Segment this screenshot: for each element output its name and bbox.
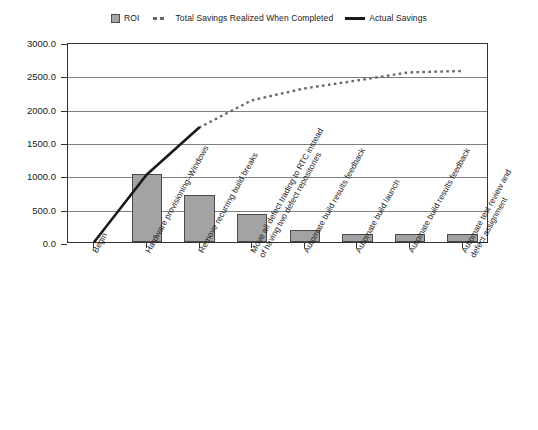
x-axis: BeginHardware provisioning–WindowsRemove… xyxy=(67,243,488,423)
y-tick-label: 1000.0 xyxy=(27,173,56,183)
total-savings-dotted-line xyxy=(199,71,461,128)
y-tick-label: 3000.0 xyxy=(27,39,56,49)
y-tick-label: 0.0 xyxy=(43,239,56,249)
roi-savings-chart: ROI Total Savings Realized When Complete… xyxy=(0,0,538,430)
legend-item-total-savings: Total Savings Realized When Completed xyxy=(152,14,334,23)
y-tick-label: 500.0 xyxy=(32,206,56,216)
solid-line-icon xyxy=(345,14,365,23)
legend-label-total-savings: Total Savings Realized When Completed xyxy=(176,14,334,23)
chart-legend: ROI Total Savings Realized When Complete… xyxy=(0,14,538,23)
legend-item-roi: ROI xyxy=(111,14,139,23)
y-tick-label: 2000.0 xyxy=(27,106,56,116)
y-tick-label: 2500.0 xyxy=(27,73,56,83)
bar-swatch-icon xyxy=(111,14,120,23)
legend-label-actual-savings: Actual Savings xyxy=(369,14,427,23)
y-axis: 0.0500.01000.01500.02000.02500.03000.0 xyxy=(0,43,67,244)
y-tick-label: 1500.0 xyxy=(27,139,56,149)
legend-item-actual-savings: Actual Savings xyxy=(345,14,427,23)
legend-label-roi: ROI xyxy=(124,14,139,23)
dotted-line-icon xyxy=(152,14,172,23)
